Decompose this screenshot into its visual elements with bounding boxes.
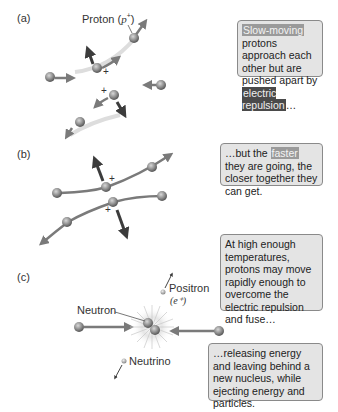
panel-b-particles [20,155,170,243]
neutrino-label: Neutrino [129,355,171,367]
caption-box-a: Slow-moving protons approach each other … [237,20,323,77]
charge-plus-a2: + [101,85,107,96]
caption-a-text-2: … [286,99,297,111]
panel-b-label: (b) [17,148,30,160]
charge-plus-a1: + [103,66,109,77]
charge-plus-b1: + [109,173,115,184]
caption-box-c2: …releasing energy and leaving behind a n… [208,343,323,401]
positron-symbol: (e⁺) [170,295,186,306]
caption-a-text-1: protons approach each other but are push… [242,37,317,87]
caption-b-text-1: …but the [225,147,271,159]
proton-label: Proton (p+) [82,12,134,25]
proton-label-close: ) [131,13,135,25]
highlight-faster: faster [271,147,299,159]
caption-c1-text: At high enough temperatures, protons may… [225,238,311,325]
panel-c-label: (c) [17,271,30,283]
caption-c2-text: …releasing energy and leaving behind a n… [213,347,310,409]
proton-label-text: Proton ( [82,13,121,25]
charge-plus-b2: + [105,204,111,215]
panel-a-particles [28,22,166,136]
highlight-slow-moving: Slow-moving [242,24,304,36]
neutron-label: Neutron [77,304,116,316]
caption-box-c1: At high enough temperatures, protons may… [220,234,323,311]
panel-a-label: (a) [17,12,30,24]
positron-label: Positron [169,282,209,294]
caption-box-b: …but the faster they are going, the clos… [220,143,323,186]
